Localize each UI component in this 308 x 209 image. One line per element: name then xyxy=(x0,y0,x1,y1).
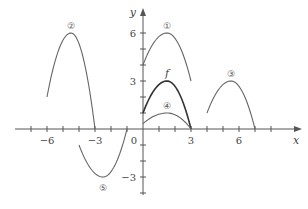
axes xyxy=(15,8,302,195)
curves xyxy=(47,33,255,177)
f-label: f xyxy=(164,67,171,80)
y-tick-label: 6 xyxy=(130,28,136,39)
y-axis-label: y xyxy=(129,6,137,19)
curve-2-label: ② xyxy=(67,21,75,31)
curve-1-label: ① xyxy=(163,21,171,31)
curve-5-label: ⑤ xyxy=(99,183,107,193)
y-axis-arrow-icon xyxy=(140,8,146,16)
x-axis-arrow-icon xyxy=(294,126,302,132)
curve-3-curve xyxy=(207,81,255,129)
x-axis-label: x xyxy=(293,134,300,147)
curve-4-label: ④ xyxy=(163,101,171,111)
tick-labels: −6−303663−3xy xyxy=(40,6,300,183)
graph-canvas: −6−303663−3xy f①②③④⑤ xyxy=(0,0,308,209)
x-tick-label: −6 xyxy=(40,135,55,146)
curve-3-label: ③ xyxy=(227,69,235,79)
x-tick-label: 3 xyxy=(188,135,194,146)
x-tick-label: 0 xyxy=(131,135,137,146)
y-tick-label: 3 xyxy=(130,76,136,87)
x-tick-label: −3 xyxy=(88,135,103,146)
curve-4-curve xyxy=(143,113,191,129)
ticks xyxy=(31,33,271,193)
curve-5-curve xyxy=(79,129,127,177)
y-tick-label: −3 xyxy=(121,172,136,183)
curve-2-curve xyxy=(47,33,95,129)
x-tick-label: 6 xyxy=(236,135,242,146)
